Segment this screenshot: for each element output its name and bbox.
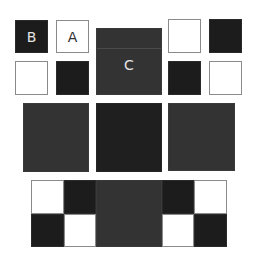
middle-square-center <box>96 103 162 172</box>
strip-right-top-left <box>162 180 194 214</box>
bottom-strip <box>31 180 227 247</box>
middle-square-right <box>168 103 235 171</box>
square-c-divider <box>97 48 161 49</box>
square-b: B <box>15 20 48 53</box>
square-top-right-bottom-left <box>168 61 201 95</box>
square-top-left-bottom-right <box>56 61 89 95</box>
strip-right-bottom-left <box>162 214 194 247</box>
strip-left-top-left <box>31 180 64 214</box>
strip-left-bottom-right <box>64 214 96 247</box>
middle-square-left <box>23 103 89 172</box>
square-a: A <box>56 20 89 53</box>
square-top-left-bottom-left <box>15 61 48 95</box>
square-top-right-bottom-right <box>209 61 242 95</box>
strip-left-bottom-left <box>31 214 64 247</box>
strip-right-top-right <box>194 180 227 214</box>
label-b: B <box>16 30 47 44</box>
square-top-right-top-right <box>209 19 242 53</box>
square-c: C <box>96 28 162 95</box>
label-c: C <box>97 58 161 72</box>
strip-left-top-right <box>64 180 96 214</box>
square-top-right-top-left <box>168 19 201 53</box>
strip-right-bottom-right <box>194 214 227 247</box>
strip-center <box>96 180 162 247</box>
label-a: A <box>57 30 88 44</box>
